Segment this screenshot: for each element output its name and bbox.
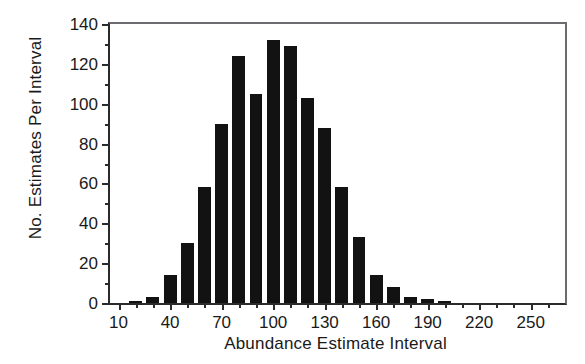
y-tick (102, 104, 110, 106)
y-tick (102, 64, 110, 66)
y-tick (102, 144, 110, 146)
x-tick-label: 130 (310, 314, 338, 331)
x-tick-label: 160 (362, 314, 390, 331)
y-tick (102, 303, 110, 305)
x-tick-minor (204, 303, 206, 308)
bar (267, 40, 280, 303)
x-tick-label: 40 (161, 314, 180, 331)
x-tick-minor (496, 303, 498, 308)
x-tick-minor (239, 303, 241, 308)
x-tick-label: 250 (516, 314, 544, 331)
y-tick-label: 20 (79, 255, 98, 272)
x-tick-minor (513, 303, 515, 308)
bar (215, 124, 228, 303)
bar (250, 94, 263, 303)
x-tick-minor (187, 303, 189, 308)
bar (318, 128, 331, 303)
x-tick-minor (410, 303, 412, 308)
x-tick (479, 303, 481, 310)
x-tick-minor (136, 303, 138, 308)
x-tick-minor (153, 303, 155, 308)
y-tick-label: 60 (79, 175, 98, 192)
y-tick-minor (105, 243, 110, 245)
y-tick (102, 263, 110, 265)
y-tick-label: 120 (70, 55, 98, 72)
y-tick-minor (105, 124, 110, 126)
x-tick-minor (307, 303, 309, 308)
plot-area: 0204060801001201401040701001301601902202… (108, 22, 567, 305)
y-tick (102, 223, 110, 225)
bar (387, 287, 400, 303)
bar (181, 243, 194, 303)
x-tick-minor (462, 303, 464, 308)
x-tick-minor (342, 303, 344, 308)
y-tick (102, 24, 110, 26)
bar (284, 46, 297, 303)
x-tick-minor (445, 303, 447, 308)
x-tick (325, 303, 327, 310)
x-tick-label: 100 (259, 314, 287, 331)
y-tick-label: 140 (70, 16, 98, 33)
bar (301, 98, 314, 303)
y-tick-minor (105, 44, 110, 46)
x-tick-minor (256, 303, 258, 308)
y-tick-label: 80 (79, 135, 98, 152)
y-tick-label: 0 (89, 295, 98, 312)
x-tick-label: 10 (109, 314, 128, 331)
x-tick (428, 303, 430, 310)
y-tick-minor (105, 164, 110, 166)
x-tick-minor (359, 303, 361, 308)
y-tick-minor (105, 203, 110, 205)
x-axis-title: Abundance Estimate Interval (108, 334, 563, 354)
x-tick-label: 190 (413, 314, 441, 331)
x-tick (531, 303, 533, 310)
x-tick (273, 303, 275, 310)
y-tick-label: 100 (70, 95, 98, 112)
x-tick-minor (393, 303, 395, 308)
bars-layer (110, 24, 565, 303)
y-tick-minor (105, 84, 110, 86)
histogram-figure: No. Estimates Per Interval 0204060801001… (0, 0, 585, 364)
x-tick (222, 303, 224, 310)
bar (335, 187, 348, 303)
bar (198, 187, 211, 303)
y-axis-title: No. Estimates Per Interval (26, 0, 46, 278)
x-tick (376, 303, 378, 310)
bar (370, 275, 383, 303)
y-tick-label: 40 (79, 215, 98, 232)
y-tick-minor (105, 283, 110, 285)
bar (353, 237, 366, 303)
x-tick-label: 220 (465, 314, 493, 331)
y-tick (102, 183, 110, 185)
x-tick (170, 303, 172, 310)
bar (232, 56, 245, 303)
x-tick-minor (290, 303, 292, 308)
x-tick-minor (548, 303, 550, 308)
bar (164, 275, 177, 303)
x-tick (119, 303, 121, 310)
x-tick-label: 70 (212, 314, 231, 331)
